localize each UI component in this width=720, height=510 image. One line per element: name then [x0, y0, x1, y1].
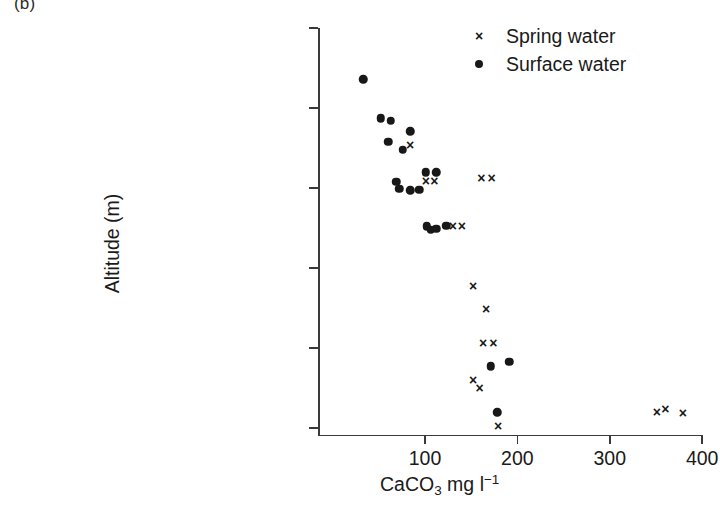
legend-item: Surface water: [466, 50, 626, 78]
x-axis-title-base: CaCO: [380, 473, 434, 495]
x-axis-line: [318, 435, 701, 437]
x-axis-title: CaCO3 mg l−1: [380, 472, 499, 498]
data-point-surface-water: [376, 114, 385, 123]
data-point-spring-water: [480, 303, 491, 314]
data-point-surface-water: [359, 75, 368, 84]
x-tick-label: 400: [686, 447, 719, 470]
data-point-spring-water: [492, 420, 503, 431]
legend-label: Spring water: [506, 25, 615, 48]
chart-legend: ×Spring waterSurface water: [466, 22, 626, 78]
dot-marker-icon: [466, 60, 492, 69]
data-point-surface-water: [395, 185, 404, 194]
data-point-surface-water: [493, 408, 502, 417]
y-tick-mark: [309, 267, 318, 269]
data-point-surface-water: [486, 362, 495, 371]
scatter-plot: 500045004000350030002500 100200300400 Al…: [0, 0, 720, 510]
y-tick-mark: [309, 27, 318, 29]
y-tick-mark: [309, 187, 318, 189]
legend-item: ×Spring water: [466, 22, 626, 50]
data-point-spring-water: [468, 280, 479, 291]
data-point-spring-water: [456, 221, 467, 232]
x-tick-mark: [701, 435, 703, 444]
x-axis-title-sub: 3: [434, 483, 442, 498]
data-point-spring-water: [405, 139, 416, 150]
x-tick-label: 100: [409, 447, 442, 470]
data-point-surface-water: [387, 117, 396, 126]
x-tick-label: 200: [501, 447, 534, 470]
x-tick-mark: [609, 435, 611, 444]
x-axis-title-mid: mg l: [442, 473, 484, 495]
legend-label: Surface water: [506, 53, 626, 76]
data-point-spring-water: [429, 175, 440, 186]
data-point-surface-water: [505, 357, 514, 366]
data-point-surface-water: [406, 127, 415, 136]
y-tick-mark: [309, 107, 318, 109]
data-point-spring-water: [660, 403, 671, 414]
y-axis-title: Altitude (m): [101, 124, 124, 364]
x-tick-mark: [517, 435, 519, 444]
cross-marker-icon: ×: [466, 28, 492, 44]
data-point-spring-water: [486, 172, 497, 183]
y-axis-line: [318, 28, 320, 436]
data-point-spring-water: [677, 407, 688, 418]
dot-marker-shape: [475, 60, 484, 69]
data-point-spring-water: [474, 383, 485, 394]
data-point-surface-water: [384, 137, 393, 146]
data-point-surface-water: [432, 225, 441, 234]
data-point-surface-water: [406, 186, 415, 195]
data-point-spring-water: [488, 338, 499, 349]
y-tick-mark: [309, 347, 318, 349]
x-axis-title-sup: −1: [484, 472, 499, 487]
x-tick-label: 300: [594, 447, 627, 470]
x-tick-mark: [424, 435, 426, 444]
y-tick-mark: [309, 427, 318, 429]
